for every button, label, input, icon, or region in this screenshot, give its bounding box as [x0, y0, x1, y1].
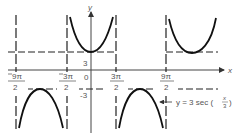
y-axis-label: y: [87, 3, 93, 12]
function-label: y = 3 sec (: [176, 98, 213, 107]
y-tick-neg3: -3: [80, 91, 88, 100]
svg-text:x: x: [222, 95, 227, 101]
x-tick-0: 0: [84, 73, 89, 82]
svg-text:3π: 3π: [111, 72, 121, 81]
svg-text:2: 2: [164, 83, 169, 92]
secant-graph: x y 3 -3 9π 2 3π 2 0 3π: [0, 0, 236, 133]
x-axis-label: x: [227, 66, 233, 75]
svg-text:9π: 9π: [161, 72, 171, 81]
svg-text:3π: 3π: [63, 72, 73, 81]
svg-text:): ): [229, 98, 232, 107]
branch-upper-right: [169, 18, 216, 53]
function-annotation: y = 3 sec ( x 3 ): [160, 95, 232, 109]
y-tick-3: 3: [83, 59, 88, 68]
svg-text:2: 2: [64, 83, 69, 92]
svg-text:2: 2: [13, 83, 18, 92]
svg-text:2: 2: [114, 83, 119, 92]
svg-text:3: 3: [223, 103, 227, 109]
svg-text:9π: 9π: [12, 72, 22, 81]
